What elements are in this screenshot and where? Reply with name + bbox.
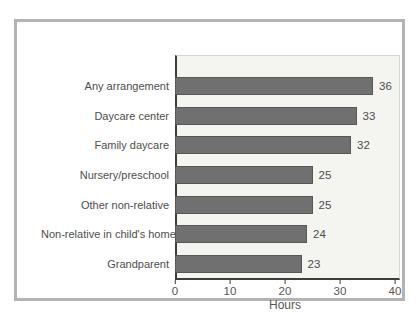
category-label: Grandparent [41, 258, 175, 270]
value-label: 23 [308, 258, 321, 270]
bar-track: 23 [175, 255, 395, 273]
bar [175, 77, 373, 95]
figure-frame: Any arrangement36Daycare center33Family … [14, 19, 405, 301]
chart-figure: Any arrangement36Daycare center33Family … [0, 0, 418, 317]
bar [175, 107, 357, 125]
x-axis-ticks: 010203040 [175, 280, 395, 300]
tick-label: 20 [279, 285, 292, 297]
x-axis-title: Hours [175, 298, 395, 312]
tick-label: 40 [389, 285, 402, 297]
tick-label: 10 [224, 285, 237, 297]
chart-row: Grandparent23 [41, 249, 397, 279]
x-axis-tick: 0 [172, 280, 178, 297]
bar-track: 25 [175, 196, 395, 214]
category-label: Daycare center [41, 110, 175, 122]
tick-mark [229, 280, 230, 284]
chart-row: Daycare center33 [41, 101, 397, 131]
tick-mark [175, 280, 176, 284]
value-label: 25 [319, 169, 332, 181]
bar-track: 36 [175, 77, 395, 95]
chart-row: Family daycare32 [41, 130, 397, 160]
bar-track: 33 [175, 107, 395, 125]
x-axis-tick: 30 [334, 280, 347, 297]
category-label: Family daycare [41, 139, 175, 151]
chart-rows: Any arrangement36Daycare center33Family … [41, 71, 397, 279]
bar [175, 225, 307, 243]
category-label: Nursery/preschool [41, 169, 175, 181]
bar [175, 166, 313, 184]
x-axis-tick: 10 [224, 280, 237, 297]
x-axis-tick: 20 [279, 280, 292, 297]
bar-track: 32 [175, 136, 395, 154]
category-label: Any arrangement [41, 80, 175, 92]
value-label: 32 [357, 139, 370, 151]
value-label: 25 [319, 199, 332, 211]
chart-row: Other non-relative25 [41, 190, 397, 220]
category-label: Non-relative in child's home [41, 228, 175, 240]
tick-label: 30 [334, 285, 347, 297]
value-label: 33 [363, 110, 376, 122]
bar [175, 136, 351, 154]
bar-track: 24 [175, 225, 395, 243]
bar-track: 25 [175, 166, 395, 184]
bar [175, 255, 302, 273]
value-label: 24 [313, 228, 326, 240]
tick-mark [284, 280, 285, 284]
chart-row: Nursery/preschool25 [41, 160, 397, 190]
tick-mark [394, 280, 395, 284]
tick-label: 0 [172, 285, 178, 297]
chart-row: Non-relative in child's home24 [41, 220, 397, 250]
tick-mark [339, 280, 340, 284]
x-axis-tick: 40 [389, 280, 402, 297]
bar [175, 196, 313, 214]
category-label: Other non-relative [41, 199, 175, 211]
chart-row: Any arrangement36 [41, 71, 397, 101]
value-label: 36 [379, 80, 392, 92]
